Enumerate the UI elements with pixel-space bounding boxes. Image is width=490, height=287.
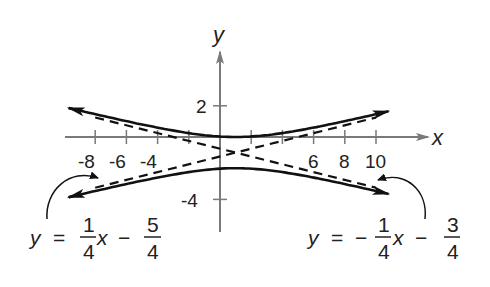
svg-text:4: 4 [447, 240, 459, 263]
equation-label-left: y = 1 4 x − 5 4 [28, 213, 161, 263]
x-tick-label: 8 [339, 151, 350, 172]
svg-text:1: 1 [378, 213, 390, 236]
curve-arrowhead [69, 196, 73, 197]
y-tick-labels: 2 -4 [181, 96, 207, 211]
svg-text:x: x [392, 226, 405, 249]
x-tick-label: 10 [365, 151, 386, 172]
svg-text:−: − [415, 226, 427, 249]
svg-text:=: = [53, 226, 65, 249]
equation-label-right: y = − 1 4 x − 3 4 [306, 213, 460, 263]
svg-text:1: 1 [83, 213, 95, 236]
y-tick-label: -4 [181, 190, 198, 211]
svg-text:−: − [118, 226, 130, 249]
x-tick-label: -8 [78, 151, 95, 172]
svg-text:y: y [306, 226, 320, 249]
svg-text:4: 4 [83, 240, 95, 263]
y-tick-label: 2 [196, 96, 207, 117]
y-axis-label: y [211, 22, 226, 47]
axes: x y [65, 22, 444, 232]
svg-text:−: − [355, 226, 367, 249]
curve-arrowhead [69, 108, 73, 109]
svg-text:4: 4 [378, 240, 390, 263]
x-tick-label: 6 [308, 151, 319, 172]
x-tick-label: -6 [109, 151, 126, 172]
svg-text:3: 3 [447, 213, 459, 236]
svg-text:5: 5 [147, 213, 159, 236]
x-axis-label: x [431, 125, 444, 150]
svg-text:y: y [28, 226, 42, 249]
svg-text:4: 4 [147, 240, 159, 263]
svg-text:=: = [331, 226, 343, 249]
hyperbola-graph: x y -8 -6 -4 6 8 10 2 -4 y = 1 4 x − 5 4… [0, 0, 490, 287]
x-tick-label: -4 [140, 151, 157, 172]
svg-text:x: x [96, 226, 109, 249]
